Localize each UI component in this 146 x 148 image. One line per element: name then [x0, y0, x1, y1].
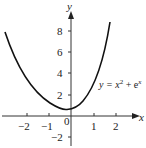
y-tick-label: −2 — [51, 131, 63, 143]
y-tick-label: 2 — [57, 89, 63, 101]
x-tick-label: 0 — [64, 115, 70, 127]
y-axis-label: y — [66, 0, 72, 12]
y-tick-label: 4 — [57, 67, 63, 79]
x-axis-label: x — [138, 111, 144, 123]
curve-equation: y = x2 + ex — [98, 78, 142, 90]
x-tick-label: 1 — [91, 120, 97, 132]
y-tick-label: 8 — [57, 25, 63, 37]
x-tick-label: −2 — [18, 120, 30, 132]
y-tick-label: 6 — [57, 46, 63, 58]
x-tick-label: 2 — [113, 120, 119, 132]
y-axis-arrow-icon — [68, 11, 74, 19]
graph: −2 −1 0 1 2 8 6 4 2 −2 x y y = x2 + ex — [0, 0, 146, 148]
